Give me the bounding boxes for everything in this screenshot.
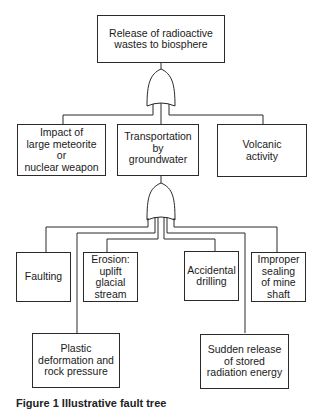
box-text: Plastic xyxy=(61,342,92,354)
volcanic-box: Volcanicactivity xyxy=(217,124,307,177)
box-text: Erosion: xyxy=(91,253,130,265)
box-text: Impact of xyxy=(40,126,83,138)
top-event-box: Release of radioactivewastes to biospher… xyxy=(97,15,225,63)
box-text: Faulting xyxy=(25,271,62,283)
figure-caption: Figure 1 Illustrative fault tree xyxy=(16,397,166,409)
box-text: or xyxy=(57,149,66,161)
or-gate-icon xyxy=(147,183,175,220)
box-text: shaft xyxy=(267,288,290,300)
box-text: Release of radioactive xyxy=(109,27,213,39)
sudden-box: Sudden releaseof storedradiation energy xyxy=(200,334,289,389)
faulting-box: Faulting xyxy=(16,252,71,302)
box-text: activity xyxy=(246,150,278,162)
box-text: sealing xyxy=(262,265,295,277)
erosion-box: Erosion:upliftglacialstream xyxy=(83,252,138,302)
box-text: Accidental xyxy=(187,264,235,276)
box-text: glacial xyxy=(96,276,126,288)
box-text: Sudden release xyxy=(208,343,282,355)
box-text: drilling xyxy=(196,275,226,287)
box-text: Transportation xyxy=(124,130,191,142)
accidental-box: Accidentaldrilling xyxy=(184,251,239,301)
box-text: large meteorite xyxy=(26,138,96,150)
improper-box: Impropersealingof mineshaft xyxy=(251,252,306,302)
or-gate-icon xyxy=(147,69,175,106)
box-text: wastes to biosphere xyxy=(114,38,207,50)
impact-box: Impact oflarge meteoriteornuclear weapon xyxy=(17,124,106,176)
box-text: by xyxy=(152,142,163,154)
box-text: nuclear weapon xyxy=(24,161,98,173)
box-text: deformation and xyxy=(38,354,114,366)
box-text: of stored xyxy=(224,355,265,367)
box-text: radiation energy xyxy=(207,366,282,378)
groundwater-box: Transportationbygroundwater xyxy=(117,124,199,176)
plastic-box: Plasticdeformation androck pressure xyxy=(32,333,120,388)
box-text: rock pressure xyxy=(44,365,108,377)
box-text: stream xyxy=(94,288,126,300)
box-text: uplift xyxy=(99,265,121,277)
box-text: groundwater xyxy=(129,153,187,165)
box-text: Improper xyxy=(257,253,299,265)
box-text: of mine xyxy=(261,276,295,288)
box-text: Volcanic xyxy=(242,138,281,150)
